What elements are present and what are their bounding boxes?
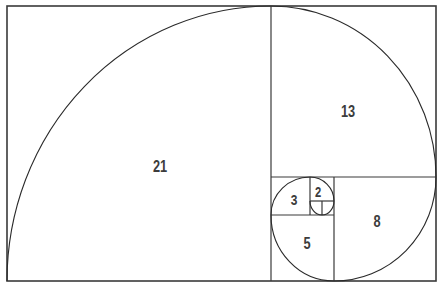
spiral-arc-1a xyxy=(322,201,334,215)
label-21: 21 xyxy=(153,157,167,175)
label-13: 13 xyxy=(341,102,355,120)
spiral-arc-21 xyxy=(7,6,271,281)
spiral-arc-2 xyxy=(310,177,334,201)
spiral-arc-5 xyxy=(271,215,334,281)
spiral-arc-13 xyxy=(271,6,436,177)
label-3: 3 xyxy=(291,192,298,209)
fibonacci-spiral-diagram: 21 13 8 5 3 2 xyxy=(0,0,442,286)
spiral-arc-1b xyxy=(310,201,322,215)
label-8: 8 xyxy=(373,212,380,230)
spiral-arc-8 xyxy=(334,177,436,281)
label-2: 2 xyxy=(315,185,321,200)
outer-rectangle xyxy=(7,6,436,281)
label-5: 5 xyxy=(303,234,310,252)
